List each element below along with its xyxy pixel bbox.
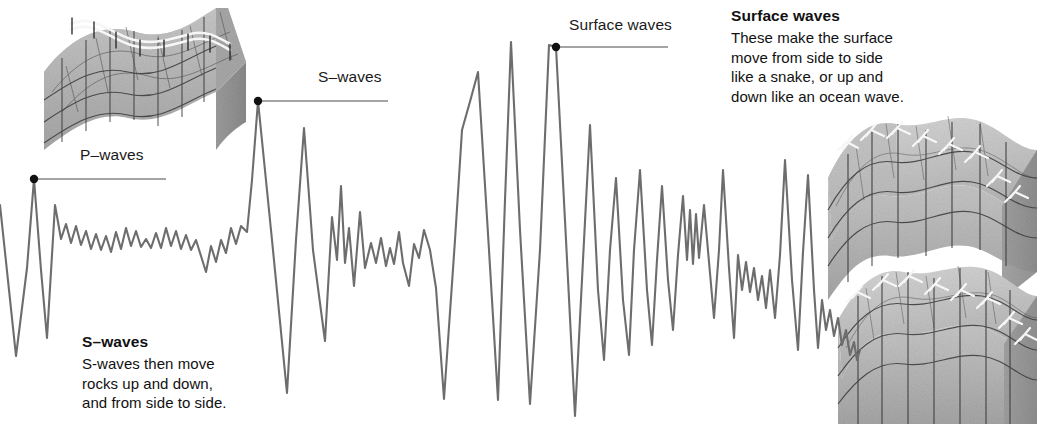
note-surface-waves-title: Surface waves — [731, 6, 904, 27]
callout-dot-s-waves — [254, 97, 262, 105]
label-s-waves: S–waves — [318, 68, 382, 86]
note-surface-waves-body: These make the surface move from side to… — [731, 28, 904, 108]
note-s-waves-title: S–waves — [82, 332, 227, 353]
callout-dot-surface-waves — [552, 43, 560, 51]
note-line: S-waves then move — [82, 354, 227, 374]
note-line: rocks up and down, — [82, 374, 227, 394]
note-line: These make the surface — [731, 28, 904, 48]
seismogram-figure: P–waves S–waves Surface waves S–waves S-… — [0, 0, 1037, 424]
note-s-waves: S–waves S-waves then move rocks up and d… — [82, 332, 227, 413]
label-surface-waves: Surface waves — [569, 16, 672, 34]
note-s-waves-body: S-waves then move rocks up and down, and… — [82, 354, 227, 414]
note-line: and from side to side. — [82, 393, 227, 413]
callout-dot-p-waves — [30, 175, 38, 183]
label-p-waves: P–waves — [80, 146, 144, 164]
note-surface-waves: Surface waves These make the surface mov… — [731, 6, 904, 107]
note-line: like a snake, or up and — [731, 67, 904, 87]
note-line: down like an ocean wave. — [731, 87, 904, 107]
note-line: move from side to side — [731, 48, 904, 68]
